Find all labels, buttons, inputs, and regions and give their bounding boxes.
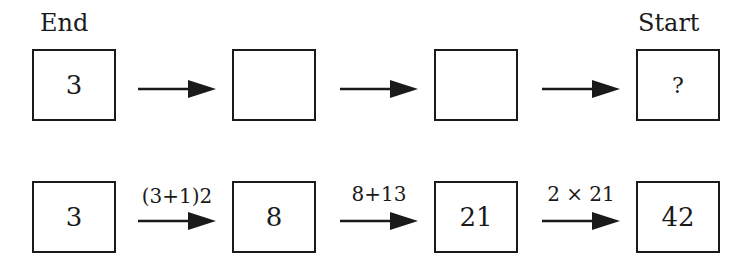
start-label: Start — [638, 9, 700, 37]
arrow-right-icon — [542, 211, 620, 231]
row2-box-3: 21 — [434, 181, 518, 253]
row1-box-3 — [434, 49, 518, 121]
arrow-right-icon — [340, 79, 418, 99]
arrow-right-icon — [542, 79, 620, 99]
operation-label: (3+1)2 — [122, 185, 232, 207]
row1-box-4: ? — [636, 49, 720, 121]
row1-box-1: 3 — [32, 49, 116, 121]
end-label: End — [40, 9, 88, 37]
row2-box-4: 42 — [636, 181, 720, 253]
operation-label: 8+13 — [324, 183, 434, 205]
arrow-right-icon — [138, 79, 216, 99]
arrow-right-icon — [340, 211, 418, 231]
row2-box-2: 8 — [232, 181, 316, 253]
arrow-right-icon — [138, 211, 216, 231]
row1-box-2 — [232, 49, 316, 121]
operation-label: 2 × 21 — [526, 183, 636, 205]
row2-box-1: 3 — [32, 181, 116, 253]
